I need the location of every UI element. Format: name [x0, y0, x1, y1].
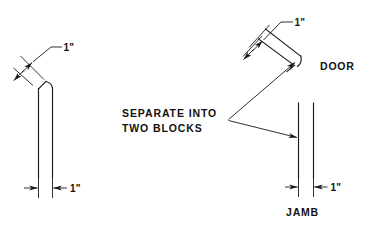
left-bottom-dimension: 1"	[24, 176, 81, 198]
door-part-label: DOOR	[320, 60, 355, 72]
door-part: 1" DOOR	[243, 17, 355, 73]
left-top-dimension: 1"	[14, 42, 75, 86]
note-line-2: TWO BLOCKS	[122, 122, 203, 134]
diagram-canvas: 1" 1" SEPARATE INTO TWO BLOCKS	[0, 0, 369, 225]
left-door-strip	[39, 82, 53, 178]
technical-drawing-svg: 1" 1" SEPARATE INTO TWO BLOCKS	[0, 0, 369, 225]
left-top-dim-arrow-lower	[14, 70, 24, 80]
left-top-dimension-label: 1"	[64, 42, 75, 53]
jamb-part: 1" JAMB	[285, 103, 341, 218]
strip-top-right-chamfer	[46, 82, 53, 89]
separate-note: SEPARATE INTO TWO BLOCKS	[122, 107, 217, 134]
leader-to-door	[229, 63, 296, 120]
jamb-dimension-label: 1"	[331, 182, 342, 193]
note-leader-lines	[229, 63, 298, 138]
door-ext-line-b	[243, 36, 262, 57]
door-dimension-label: 1"	[295, 17, 306, 28]
door-chamfer-tip	[298, 56, 302, 66]
left-top-ext-line-a	[21, 56, 45, 80]
left-bottom-dimension-label: 1"	[70, 183, 81, 194]
left-top-dim-leader	[33, 47, 62, 62]
leader-to-jamb	[229, 121, 298, 138]
strip-top-left-chamfer	[39, 82, 46, 90]
note-line-1: SEPARATE INTO	[122, 107, 217, 119]
jamb-part-label: JAMB	[286, 206, 319, 218]
door-edge-lower	[259, 39, 295, 66]
